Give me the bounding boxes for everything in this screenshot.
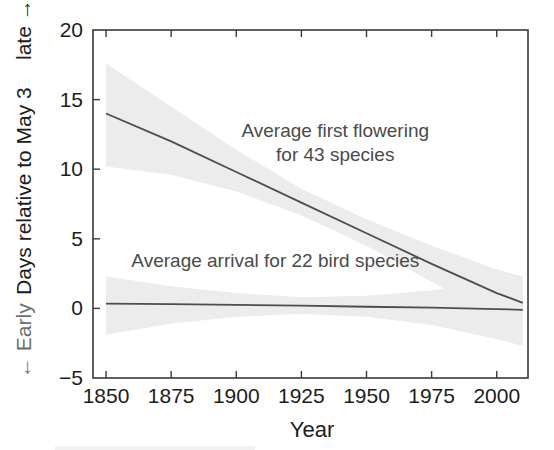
y-tick-label: −5 — [59, 366, 83, 389]
bird-annotation-line: Average arrival for 22 bird species — [131, 250, 419, 271]
figure-container: 1850187519001925195019752000 −505101520 … — [0, 0, 554, 450]
x-tick-label: 1925 — [278, 384, 325, 407]
y-axis-ticks — [93, 100, 100, 309]
x-axis-title: Year — [290, 417, 334, 442]
y-axis-tick-labels: −505101520 — [59, 18, 83, 389]
bird-annotation: Average arrival for 22 bird species — [131, 250, 419, 271]
flowering-annotation-line: Average first flowering — [241, 120, 429, 141]
y-axis-title: ← Early Days relative to May 3 late → — [12, 0, 35, 378]
y-tick-label: 20 — [60, 18, 83, 41]
y-axis-title-main-segment: Days relative to May 3 — [12, 87, 35, 295]
flowering-annotation: Average first floweringfor 43 species — [241, 120, 429, 165]
y-tick-label: 5 — [71, 227, 83, 250]
x-tick-label: 1975 — [408, 384, 455, 407]
y-tick-label: 15 — [60, 88, 83, 111]
chart-canvas: 1850187519001925195019752000 −505101520 … — [0, 0, 554, 450]
y-tick-label: 10 — [60, 157, 83, 180]
x-tick-label: 1950 — [343, 384, 390, 407]
x-axis-tick-labels: 1850187519001925195019752000 — [83, 384, 520, 407]
y-tick-label: 0 — [71, 296, 83, 319]
x-tick-label: 1900 — [213, 384, 260, 407]
confidence-band-bird-arrival — [106, 276, 523, 346]
x-tick-label: 2000 — [473, 384, 520, 407]
x-tick-label: 1850 — [83, 384, 130, 407]
x-tick-label: 1875 — [148, 384, 195, 407]
bottom-edge-artifact — [55, 446, 255, 450]
y-axis-title-early-segment: ← Early — [12, 303, 35, 378]
y-axis-title-late-segment: late → — [12, 0, 35, 60]
flowering-annotation-line: for 43 species — [276, 144, 394, 165]
